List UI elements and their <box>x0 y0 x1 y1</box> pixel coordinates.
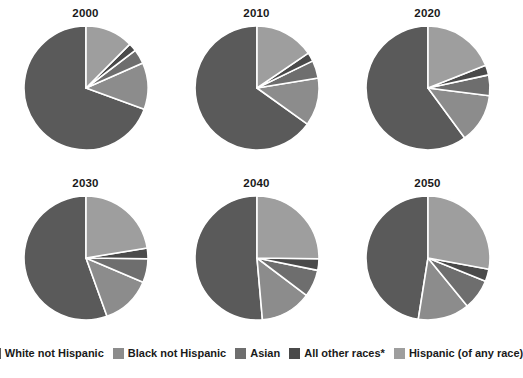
pie-slice <box>365 196 427 319</box>
pie-panel-2020: 2020 <box>342 0 513 170</box>
pie-svg-2030 <box>22 194 150 322</box>
legend-item-label: Asian <box>250 347 280 359</box>
legend-item-white-not-hispanic: White not Hispanic <box>0 347 104 359</box>
pie-panel-title: 2030 <box>0 177 171 190</box>
pie-panel-2040: 2040 <box>171 170 342 340</box>
legend-item-label: Hispanic (of any race) <box>409 347 523 359</box>
legend-swatch-icon <box>0 348 1 359</box>
legend-swatch-icon <box>394 348 405 359</box>
legend-item-label: All other races* <box>304 347 385 359</box>
legend-item-label: Black not Hispanic <box>128 347 226 359</box>
pie-slice <box>428 196 490 269</box>
pie-panel-2030: 2030 <box>0 170 171 340</box>
pie-panel-title: 2010 <box>171 7 342 20</box>
pie-panel-2010: 2010 <box>171 0 342 170</box>
pie-panel-title: 2020 <box>342 7 513 20</box>
pie-svg-2020 <box>364 24 492 152</box>
pie-slice <box>194 196 261 320</box>
legend-swatch-icon <box>235 348 246 359</box>
pie-panel-2050: 2050 <box>342 170 513 340</box>
legend-item-label: White not Hispanic <box>5 347 104 359</box>
legend-item-asian: Asian <box>235 347 280 359</box>
legend-item-black-not-hispanic: Black not Hispanic <box>113 347 226 359</box>
pie-panel-title: 2040 <box>171 177 342 190</box>
legend-item-all-other-races: All other races* <box>289 347 385 359</box>
pie-svg-2010 <box>193 24 321 152</box>
legend-swatch-icon <box>289 348 300 359</box>
legend-swatch-icon <box>113 348 124 359</box>
pie-svg-2040 <box>193 194 321 322</box>
pie-panel-title: 2000 <box>0 7 171 20</box>
pie-svg-2000 <box>22 24 150 152</box>
pie-svg-2050 <box>364 194 492 322</box>
pie-chart-grid: 2000 2010 2020 2030 2040 2050 <box>0 0 513 340</box>
legend-item-hispanic-any-race: Hispanic (of any race) <box>394 347 523 359</box>
pie-slice <box>257 196 319 259</box>
pie-slice <box>86 196 147 258</box>
pie-panel-2000: 2000 <box>0 0 171 170</box>
pie-panel-title: 2050 <box>342 177 513 190</box>
chart-legend: White not Hispanic Black not Hispanic As… <box>0 342 513 364</box>
